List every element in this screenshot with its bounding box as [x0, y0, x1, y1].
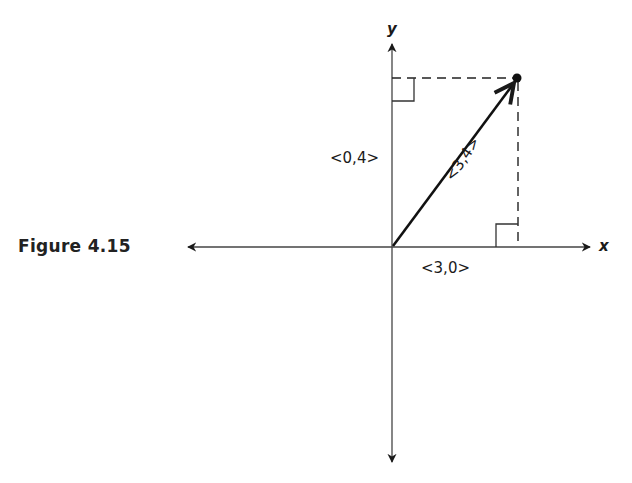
label-vector-3-0: <3,0>	[421, 259, 470, 277]
figure-caption: Figure 4.15	[18, 236, 131, 256]
right-angle-marker-bottom	[496, 224, 518, 247]
y-axis-label: y	[387, 20, 397, 38]
x-axis-label: x	[599, 237, 609, 255]
right-angle-marker-top	[392, 78, 414, 101]
endpoint-dot	[513, 74, 522, 83]
label-vector-0-4: <0,4>	[330, 149, 379, 167]
